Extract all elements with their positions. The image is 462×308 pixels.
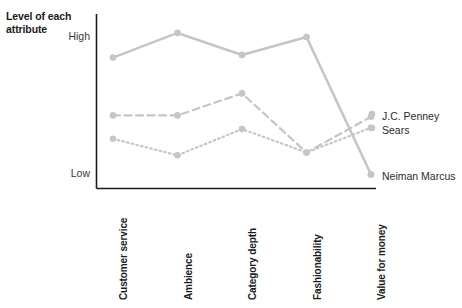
data-point bbox=[239, 52, 246, 59]
data-point bbox=[239, 126, 246, 133]
x-axis-label-fashionability: Fashionability bbox=[312, 234, 323, 300]
plot-area bbox=[0, 0, 462, 308]
axes bbox=[97, 14, 377, 189]
data-point bbox=[303, 34, 310, 41]
data-point bbox=[110, 54, 117, 61]
legend-marker-jc-penney bbox=[369, 111, 376, 118]
perceptual-map-chart: Level of each attribute High Low Custome… bbox=[0, 0, 462, 308]
x-axis-label-customer-service: Customer service bbox=[118, 218, 129, 300]
data-point bbox=[110, 136, 117, 143]
legend-label-sears: Sears bbox=[382, 124, 409, 136]
x-axis-label-category-depth: Category depth bbox=[247, 228, 258, 300]
data-point bbox=[303, 149, 310, 156]
legend-label-jc-penney: J.C. Penney bbox=[382, 110, 439, 122]
series-layer bbox=[110, 30, 376, 178]
data-point bbox=[174, 152, 181, 159]
data-point bbox=[110, 112, 117, 119]
data-point bbox=[174, 112, 181, 119]
x-axis-label-value-for-money: Value for money bbox=[376, 224, 387, 300]
x-axis-label-ambience: Ambience bbox=[183, 253, 194, 300]
legend-marker-sears bbox=[369, 125, 376, 132]
data-point bbox=[239, 90, 246, 97]
legend-label-neiman-marcus: Neiman Marcus bbox=[382, 170, 456, 182]
data-point bbox=[174, 30, 181, 37]
legend-marker-neiman-marcus bbox=[368, 171, 375, 178]
